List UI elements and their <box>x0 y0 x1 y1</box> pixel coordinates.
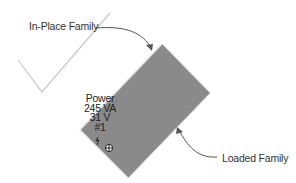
power-tag[interactable]: Power 245 VA 31 V #1 <box>74 94 126 132</box>
in-place-family-label: In-Place Family <box>29 20 98 32</box>
move-grip-icon[interactable] <box>105 144 113 152</box>
in-place-callout-arrow <box>96 28 153 51</box>
diagram-canvas: In-Place Family Loaded Family Power 245 … <box>0 0 296 183</box>
loaded-callout-arrow <box>176 127 217 157</box>
tag-number: #1 <box>74 123 126 133</box>
loaded-family-label: Loaded Family <box>222 152 288 164</box>
